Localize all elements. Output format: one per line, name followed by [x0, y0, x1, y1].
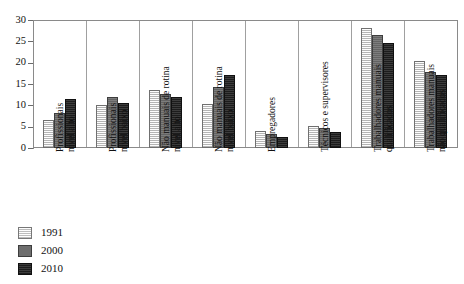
legend-label-2000: 2000 [41, 245, 63, 256]
group-separator [192, 21, 193, 147]
bar-1991-2 [149, 90, 160, 148]
group-separator [86, 21, 87, 147]
group-separator [351, 21, 352, 147]
bar-1991-3 [202, 104, 213, 148]
category-label-line: Trabalhadores manuais [426, 64, 437, 152]
bar-chart: 051015202530 Profissionaisnível altoProf… [0, 0, 464, 284]
category-label-line: nível baixo [119, 103, 130, 152]
legend-item-1991: 1991 [18, 224, 63, 241]
bar-1991-5 [308, 126, 319, 148]
y-axis-tick-label: 5 [0, 121, 26, 132]
legend-swatch-1991 [18, 227, 32, 239]
y-axis-tick [28, 127, 33, 128]
category-label-line: nível alto [66, 103, 77, 152]
y-axis-tick [28, 41, 33, 42]
category-label-6: Trabalhadores manuaisqualificados [373, 64, 395, 152]
category-label-line: Não manuais de rotina [214, 66, 225, 152]
bar-1991-7 [414, 61, 425, 148]
legend-label-1991: 1991 [41, 227, 63, 238]
category-label-line: nível baixo [225, 66, 236, 152]
bar-2010-4 [277, 137, 288, 148]
category-label-2: Não manuais de rotinanível alto [161, 66, 183, 152]
legend-swatch-2000 [18, 245, 32, 257]
category-label-line: Profissionais [55, 103, 66, 152]
category-label-3: Não manuais de rotinanível baixo [214, 66, 236, 152]
y-axis-tick-label: 30 [0, 15, 26, 26]
y-axis-tick-label: 20 [0, 57, 26, 68]
y-axis-tick [28, 63, 33, 64]
category-label-5: Técnicos e supervisores [320, 61, 331, 152]
y-axis-tick [28, 148, 33, 149]
y-axis-tick-label: 25 [0, 36, 26, 47]
legend: 1991 2000 2010 [18, 224, 63, 278]
category-label-4: Empregadores [267, 97, 278, 152]
legend-swatch-2010 [18, 263, 32, 275]
category-label-line: Empregadores [267, 97, 278, 152]
y-axis-tick-label: 10 [0, 100, 26, 111]
y-axis-tick [28, 105, 33, 106]
group-separator [404, 21, 405, 147]
legend-label-2010: 2010 [41, 263, 63, 274]
category-label-line: qualificados [384, 64, 395, 152]
category-label-0: Profissionaisnível alto [55, 103, 77, 152]
y-axis-tick [28, 84, 33, 85]
y-axis-tick [28, 20, 33, 21]
category-label-line: Técnicos e supervisores [320, 61, 331, 152]
category-label-line: Não manuais de rotina [161, 66, 172, 152]
y-axis-line [33, 20, 34, 149]
category-label-1: Profissionaisnível baixo [108, 103, 130, 152]
group-separator [298, 21, 299, 147]
category-label-line: nível alto [172, 66, 183, 152]
legend-item-2000: 2000 [18, 242, 63, 259]
group-separator [139, 21, 140, 147]
y-axis-tick-label: 0 [0, 143, 26, 154]
y-axis-tick-label: 15 [0, 79, 26, 90]
category-label-7: Trabalhadores manuaisnão qualificados [426, 64, 448, 152]
category-label-line: Trabalhadores manuais [373, 64, 384, 152]
bar-1991-0 [43, 120, 54, 148]
category-label-line: não qualificados [437, 64, 448, 152]
group-separator [245, 21, 246, 147]
bar-1991-4 [255, 131, 266, 148]
scan-artifact-top [150, 0, 320, 7]
bar-1991-1 [96, 105, 107, 148]
bar-2010-5 [330, 132, 341, 148]
bar-1991-6 [361, 28, 372, 148]
category-label-line: Profissionais [108, 103, 119, 152]
legend-item-2010: 2010 [18, 260, 63, 277]
